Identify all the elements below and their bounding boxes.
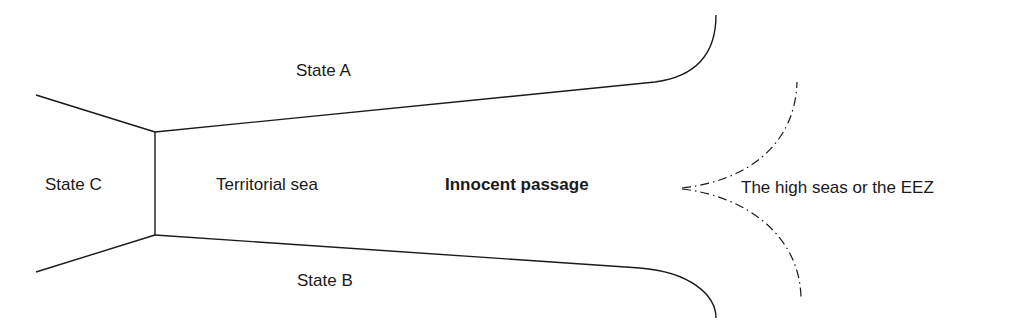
territorial-sea-label: Territorial sea xyxy=(216,176,318,193)
eez-lower-limit xyxy=(682,189,801,298)
strait-diagram xyxy=(0,0,1010,325)
high-seas-eez-label: The high seas or the EEZ xyxy=(741,179,934,196)
state-c-lower-boundary xyxy=(36,235,155,272)
state-c-upper-boundary xyxy=(36,95,155,132)
eez-upper-limit xyxy=(682,82,797,188)
state-b-label: State B xyxy=(297,272,353,289)
innocent-passage-label: Innocent passage xyxy=(445,176,589,193)
state-c-label: State C xyxy=(45,176,102,193)
state-b-coastline xyxy=(155,235,716,318)
state-a-coastline xyxy=(155,15,716,132)
state-a-label: State A xyxy=(296,62,351,79)
